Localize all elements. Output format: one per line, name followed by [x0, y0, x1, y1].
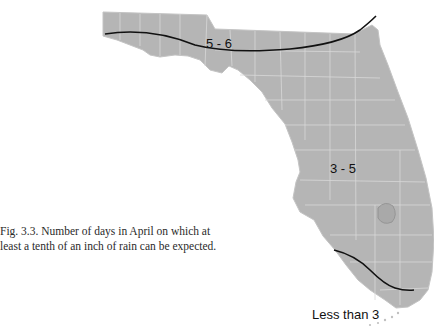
- zone-label-north: 5 - 6: [206, 36, 232, 51]
- caption-line-2: least a tenth of an inch of rain can be …: [0, 239, 250, 254]
- florida-shape: [103, 12, 434, 308]
- figure-caption: Fig. 3.3. Number of days in April on whi…: [0, 224, 250, 254]
- florida-map: 5 - 6 3 - 5 Less than 3: [0, 0, 434, 328]
- zone-label-south: Less than 3: [312, 307, 379, 322]
- zone-label-central: 3 - 5: [330, 161, 356, 176]
- caption-line-1: Fig. 3.3. Number of days in April on whi…: [0, 224, 250, 239]
- lake-okeechobee: [378, 203, 395, 223]
